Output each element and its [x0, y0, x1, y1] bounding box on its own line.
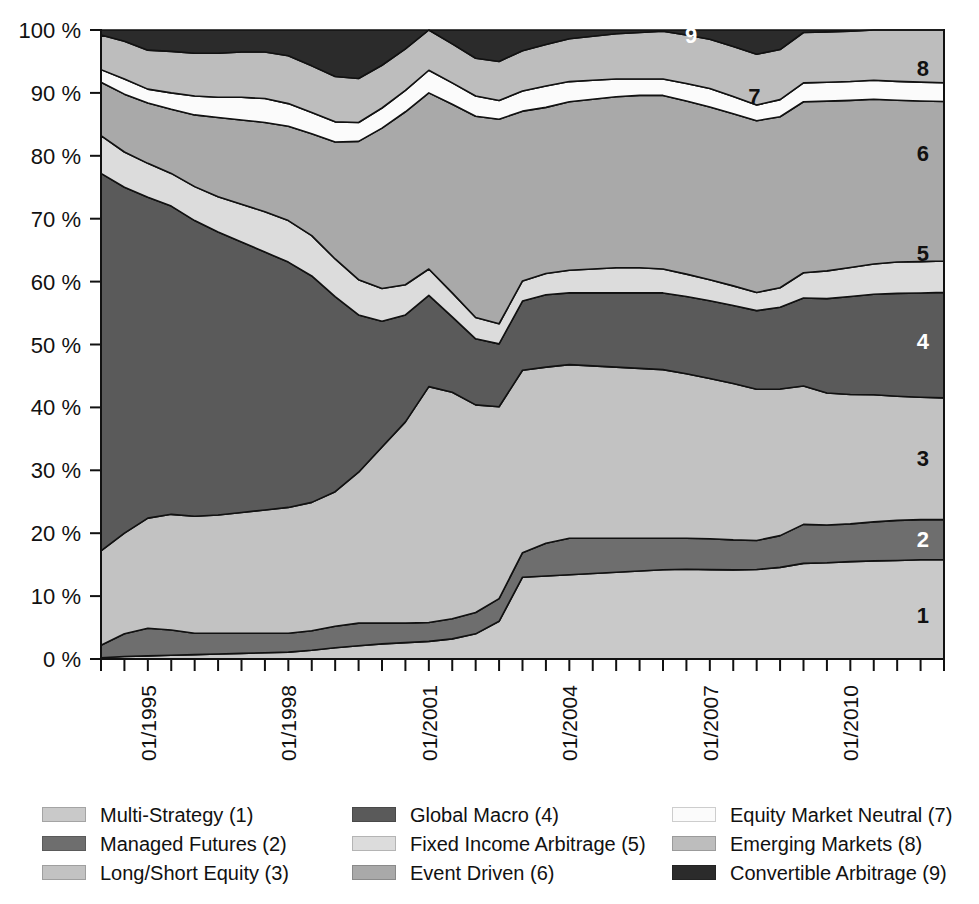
- y-tick-label: 0 %: [43, 647, 81, 672]
- legend-swatch-icon: [672, 836, 716, 851]
- y-tick-label: 100 %: [19, 18, 81, 43]
- chart-page: 0 %10 %20 %30 %40 %50 %60 %70 %80 %90 %1…: [0, 0, 979, 904]
- band-number-label: 2: [917, 527, 929, 552]
- band-number-label: 8: [917, 56, 929, 81]
- y-tick-label: 90 %: [31, 81, 81, 106]
- band-number-label: 1: [917, 603, 929, 628]
- legend-item[interactable]: Fixed Income Arbitrage (5): [352, 829, 646, 858]
- legend-swatch-icon: [42, 865, 86, 880]
- band-number-label: 3: [917, 446, 929, 471]
- x-tick-label: 01/1995: [137, 685, 160, 761]
- stacked-area-chart: 0 %10 %20 %30 %40 %50 %60 %70 %80 %90 %1…: [0, 0, 979, 780]
- legend-item[interactable]: Equity Market Neutral (7): [672, 800, 952, 829]
- legend-swatch-icon: [352, 865, 396, 880]
- band-number-label: 6: [917, 141, 929, 166]
- legend-swatch-icon: [672, 865, 716, 880]
- legend-column-3: Equity Market Neutral (7)Emerging Market…: [672, 800, 952, 887]
- legend-item[interactable]: Multi-Strategy (1): [42, 800, 289, 829]
- x-tick-label: 01/2004: [558, 685, 581, 761]
- y-tick-label: 10 %: [31, 584, 81, 609]
- x-tick-label: 01/2007: [699, 685, 722, 761]
- band-number-label: 5: [917, 241, 929, 266]
- chart-legend: Multi-Strategy (1)Managed Futures (2)Lon…: [0, 800, 979, 904]
- legend-item[interactable]: Convertible Arbitrage (9): [672, 858, 952, 887]
- x-tick-label: 01/2010: [839, 685, 862, 761]
- legend-column-2: Global Macro (4)Fixed Income Arbitrage (…: [352, 800, 646, 887]
- band-number-label: 9: [685, 23, 697, 48]
- legend-swatch-icon: [42, 807, 86, 822]
- legend-swatch-icon: [352, 836, 396, 851]
- legend-label: Long/Short Equity (3): [100, 863, 289, 883]
- legend-item[interactable]: Emerging Markets (8): [672, 829, 952, 858]
- legend-label: Equity Market Neutral (7): [730, 805, 952, 825]
- y-tick-label: 60 %: [31, 270, 81, 295]
- legend-item[interactable]: Long/Short Equity (3): [42, 858, 289, 887]
- y-tick-label: 40 %: [31, 395, 81, 420]
- y-tick-label: 30 %: [31, 458, 81, 483]
- y-tick-label: 50 %: [31, 333, 81, 358]
- band-number-label: 4: [917, 329, 930, 354]
- legend-swatch-icon: [42, 836, 86, 851]
- legend-item[interactable]: Managed Futures (2): [42, 829, 289, 858]
- legend-swatch-icon: [672, 807, 716, 822]
- legend-item[interactable]: Global Macro (4): [352, 800, 646, 829]
- legend-item[interactable]: Event Driven (6): [352, 858, 646, 887]
- legend-label: Convertible Arbitrage (9): [730, 863, 947, 883]
- x-tick-label: 01/2001: [418, 685, 441, 761]
- band-number-label: 7: [748, 84, 760, 109]
- legend-label: Emerging Markets (8): [730, 834, 922, 854]
- x-tick-label: 01/1998: [277, 685, 300, 761]
- legend-label: Fixed Income Arbitrage (5): [410, 834, 646, 854]
- y-tick-label: 20 %: [31, 521, 81, 546]
- legend-label: Managed Futures (2): [100, 834, 287, 854]
- legend-label: Multi-Strategy (1): [100, 805, 253, 825]
- legend-label: Event Driven (6): [410, 863, 555, 883]
- legend-swatch-icon: [352, 807, 396, 822]
- legend-column-1: Multi-Strategy (1)Managed Futures (2)Lon…: [42, 800, 289, 887]
- legend-label: Global Macro (4): [410, 805, 559, 825]
- chart-svg: 0 %10 %20 %30 %40 %50 %60 %70 %80 %90 %1…: [0, 0, 979, 780]
- y-tick-label: 70 %: [31, 207, 81, 232]
- y-tick-label: 80 %: [31, 144, 81, 169]
